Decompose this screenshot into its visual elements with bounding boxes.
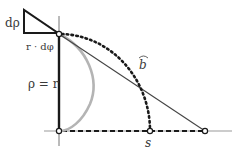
- diagram-canvas: dρ r · dφ ρ = r b s: [0, 0, 240, 152]
- point-origin: [56, 128, 61, 133]
- differential-triangle: [24, 10, 58, 33]
- label-r-dphi: r · dφ: [26, 41, 54, 52]
- diagonal-line: [59, 34, 205, 131]
- label-rho-eq-r: ρ = r: [28, 77, 59, 91]
- dotted-arc-b: [62, 34, 150, 129]
- gray-curve: [59, 34, 93, 131]
- point-arc-end: [147, 128, 152, 133]
- point-top: [56, 31, 61, 36]
- point-diagonal-end: [202, 128, 207, 133]
- label-s: s: [145, 136, 151, 150]
- label-d-rho: dρ: [5, 16, 20, 30]
- geometry-diagram: dρ r · dφ ρ = r b s: [0, 0, 240, 152]
- label-arc-b: b: [139, 58, 147, 72]
